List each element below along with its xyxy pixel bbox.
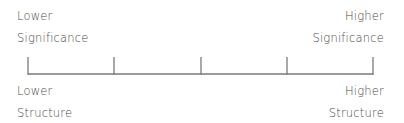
label-line: Structure [17, 102, 72, 123]
higher-structure-label: Higher Structure [329, 80, 384, 123]
lower-structure-label: Lower Structure [17, 80, 72, 123]
label-line: Lower [17, 80, 72, 102]
label-line: Higher [329, 80, 384, 102]
label-line: Structure [329, 102, 384, 123]
